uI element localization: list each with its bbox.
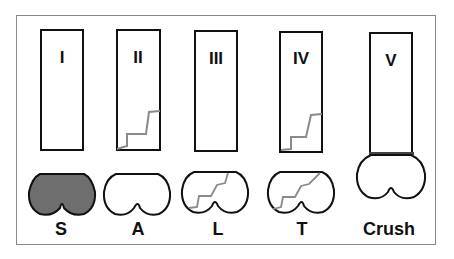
fracture-label: L: [213, 219, 224, 239]
fracture-label: T: [297, 219, 308, 239]
type-numeral: I: [60, 48, 65, 67]
type-iv-vertebra: IV: [280, 32, 322, 152]
type-t-disc: T: [268, 172, 334, 239]
type-numeral: III: [209, 49, 223, 68]
type-s-disc: S: [29, 174, 95, 239]
type-a-disc: A: [104, 174, 170, 239]
type-l-disc: L: [182, 172, 248, 239]
fracture-label: S: [55, 219, 67, 239]
fracture-diagram: I S II A III L IV T V Cr: [0, 0, 454, 259]
fracture-line: [189, 173, 228, 208]
type-crush-disc: Crush: [357, 155, 425, 239]
fracture-label: A: [132, 219, 145, 239]
fracture-line: [273, 173, 320, 209]
type-numeral: IV: [293, 49, 310, 68]
type-ii-vertebra: II: [117, 30, 160, 150]
fracture-label: Crush: [363, 219, 415, 239]
split-disc-shape: [29, 174, 95, 215]
fracture-line: [117, 111, 160, 149]
disc-shape: [104, 174, 170, 215]
disc-shape: [357, 155, 425, 198]
disc-shape: [268, 172, 334, 213]
type-iii-vertebra: III: [195, 31, 237, 151]
type-v-vertebra: V: [369, 33, 414, 155]
type-i-vertebra: I: [41, 30, 83, 150]
type-numeral: II: [133, 48, 142, 67]
fracture-line: [281, 114, 322, 150]
type-numeral: V: [385, 51, 397, 70]
disc-shape: [182, 172, 248, 213]
